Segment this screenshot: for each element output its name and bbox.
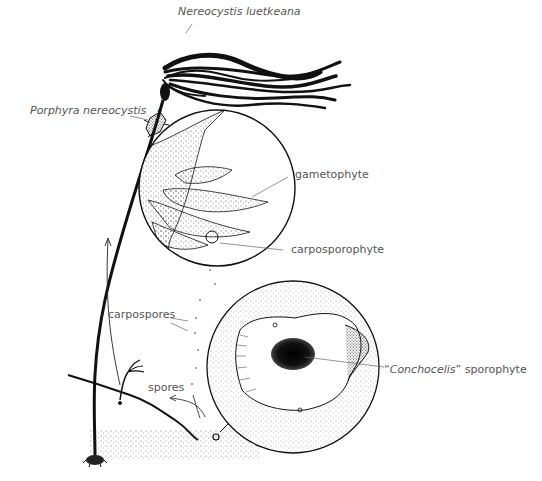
young-sporeling: [119, 360, 145, 405]
spores-arrow: [170, 395, 205, 417]
life-cycle-diagram: [0, 0, 542, 481]
sporophyte-suffix: sporophyte: [461, 363, 527, 376]
kelp-blades: [163, 55, 350, 108]
gametophyte-circle: [139, 110, 295, 290]
label-spores: spores: [148, 381, 184, 394]
seafloor-sediment: [90, 430, 260, 460]
conchocelis-name: Conchocelis: [390, 363, 456, 376]
label-gametophyte: gametophyte: [295, 168, 369, 181]
label-porphyra-nereocystis: Porphyra nereocystis: [30, 104, 146, 117]
label-nereocystis-luetkeana: Nereocystis luetkeana: [178, 5, 301, 18]
conchocelis-patch: [271, 338, 315, 370]
carpospores-arrow-down: [193, 395, 200, 418]
label-carposporophyte: carposporophyte: [291, 243, 384, 256]
label-carpospores: carpospores: [108, 308, 175, 321]
pneumatocyst: [160, 83, 170, 101]
label-conchocelis-sporophyte: “Conchocelis” sporophyte: [384, 363, 527, 376]
